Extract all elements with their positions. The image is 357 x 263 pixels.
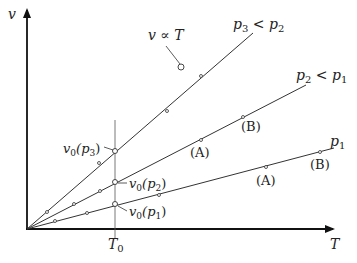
label-B-p2: (B) [241,119,261,134]
v-vs-T-diagram: v T T0 v ∝ T p3 < p2 p2 < p1 [0,0,357,263]
proportional-leader [166,46,180,64]
x-axis-label: T [330,236,341,252]
v0-p1-point [113,202,118,207]
v0-p2-point [113,180,118,185]
label-p3: p3 < p2 [233,16,284,34]
y-axis-label: v [8,6,16,22]
v0-p1-leader [118,206,127,211]
proportional-label: v ∝ T [148,27,185,43]
v0-p3-leader [104,147,113,150]
v0-p2-label: v0(p2) [129,176,166,193]
label-B-p1: (B) [310,157,330,172]
t0-tick-label: T0 [108,236,124,254]
proportional-point [178,64,184,70]
label-p2: p2 < p1 [296,67,347,85]
v0-p3-label: v0(p3) [63,141,100,158]
v0-p3-point [113,149,118,154]
v0-p1-label: v0(p1) [129,204,166,221]
line-p2 [27,85,306,229]
label-A-p1: (A) [256,173,276,188]
label-A-p2: (A) [190,145,210,160]
label-p1: p1 [330,133,345,151]
